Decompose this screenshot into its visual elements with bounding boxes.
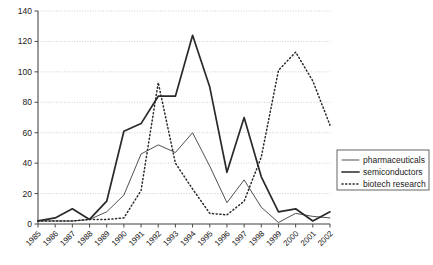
x-tick-label: 1995 <box>196 229 215 248</box>
x-tick-label: 2000 <box>282 229 301 248</box>
y-tick-label: 100 <box>18 67 32 77</box>
x-tick-label: 1997 <box>230 229 249 248</box>
y-tick-label: 40 <box>23 158 33 168</box>
x-tick-label: 1992 <box>144 229 163 248</box>
legend-label: pharmaceuticals <box>363 155 425 165</box>
legend-label: biotech research <box>363 179 426 189</box>
line-chart: 020406080100120140 198519861987198819891… <box>0 0 433 265</box>
x-tick-label: 1986 <box>41 229 60 248</box>
y-tick-label: 60 <box>23 128 33 138</box>
x-tick-label: 1999 <box>264 229 283 248</box>
series-line-biotech-research <box>38 52 330 221</box>
x-tick-label: 2002 <box>316 229 335 248</box>
x-tick-label: 2001 <box>299 229 318 248</box>
y-tick-labels: 020406080100120140 <box>18 6 32 229</box>
x-tick-label: 1991 <box>127 229 146 248</box>
y-tick-label: 120 <box>18 36 32 46</box>
legend-label: semiconductors <box>363 167 423 177</box>
x-tick-label: 1989 <box>93 229 112 248</box>
series-line-semiconductors <box>38 35 330 221</box>
x-tick-label: 1987 <box>58 229 77 248</box>
chart-legend: pharmaceuticalssemiconductorsbiotech res… <box>337 150 429 190</box>
x-tick-label: 1994 <box>179 229 198 248</box>
y-tick-label: 0 <box>27 219 32 229</box>
x-tick-label: 1993 <box>161 229 180 248</box>
x-tick-label: 1985 <box>24 229 43 248</box>
y-tick-label: 80 <box>23 97 33 107</box>
x-tick-label: 1998 <box>247 229 266 248</box>
chart-canvas: 020406080100120140 198519861987198819891… <box>0 0 433 265</box>
x-tick-labels: 1985198619871988198919901991199219931994… <box>24 229 335 248</box>
x-tick-label: 1988 <box>75 229 94 248</box>
data-series-group <box>38 35 330 222</box>
gridlines-group <box>38 11 330 224</box>
x-tick-label: 1990 <box>110 229 129 248</box>
y-tick-label: 20 <box>23 189 33 199</box>
series-line-pharmaceuticals <box>38 133 330 223</box>
y-tick-label: 140 <box>18 6 32 16</box>
x-tick-label: 1996 <box>213 229 232 248</box>
